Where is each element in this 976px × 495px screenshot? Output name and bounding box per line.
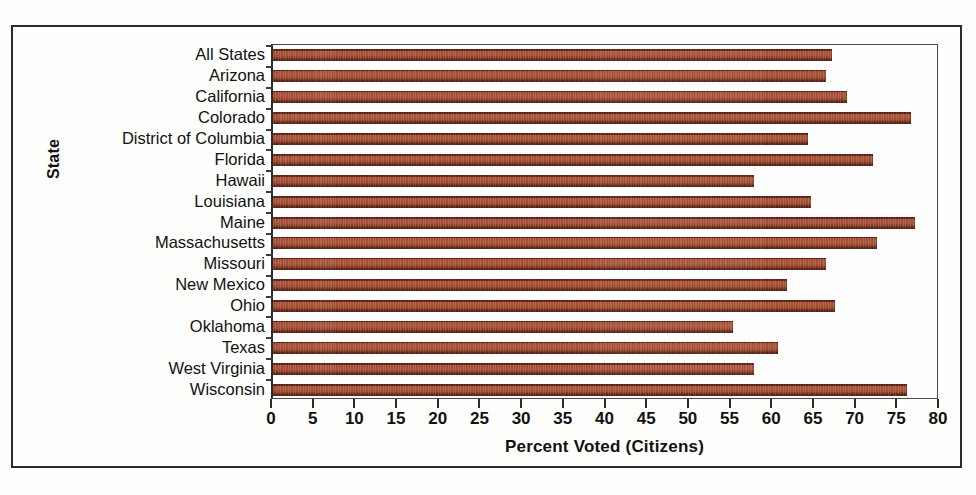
y-axis-tick	[266, 254, 273, 256]
bar-texture	[273, 363, 754, 375]
y-axis-tick	[266, 275, 273, 277]
y-axis-tick-label: Ohio	[60, 297, 265, 314]
plot-area	[271, 44, 938, 399]
bar	[273, 258, 826, 270]
bar	[273, 342, 778, 354]
bar-texture	[273, 112, 911, 124]
y-axis-tick-label: Massachusetts	[60, 234, 265, 251]
y-axis-tick-label: All States	[60, 46, 265, 63]
y-axis-tick	[266, 149, 273, 151]
x-axis-tick-label: 5	[308, 409, 317, 429]
bar-texture	[273, 154, 873, 166]
bar	[273, 384, 907, 396]
bar	[273, 237, 877, 249]
bar	[273, 279, 787, 291]
y-axis-tick-label: Florida	[60, 151, 265, 168]
x-axis-tick	[687, 399, 689, 408]
y-axis-tick-label: Missouri	[60, 255, 265, 272]
x-axis-tick-label: 65	[803, 409, 822, 429]
x-axis-tick-label: 15	[387, 409, 406, 429]
bar-texture	[273, 49, 832, 61]
x-axis-tick-label: 80	[929, 409, 948, 429]
bar	[273, 154, 873, 166]
x-axis-tick-label: 30	[512, 409, 531, 429]
bar	[273, 49, 832, 61]
x-axis-tick-label: 50	[678, 409, 697, 429]
y-axis-tick	[266, 66, 273, 68]
bar	[273, 300, 835, 312]
y-axis-tick-label: Wisconsin	[60, 381, 265, 398]
x-axis-tick-label: 25	[470, 409, 489, 429]
y-axis-tick	[266, 170, 273, 172]
x-axis-tick	[395, 399, 397, 408]
bar-texture	[273, 217, 915, 229]
y-axis-tick-label: Maine	[60, 214, 265, 231]
x-axis-tick-label: 75	[887, 409, 906, 429]
bar-texture	[273, 258, 826, 270]
x-axis-tick	[937, 399, 939, 408]
y-axis-tick-label: California	[60, 88, 265, 105]
x-axis-tick	[604, 399, 606, 408]
bar-texture	[273, 91, 847, 103]
x-axis-tick-label: 45	[637, 409, 656, 429]
x-axis-tick	[645, 399, 647, 408]
y-axis-tick-label: West Virginia	[60, 360, 265, 377]
y-axis-tick	[266, 191, 273, 193]
x-axis-tick-label: 20	[428, 409, 447, 429]
y-axis-tick	[266, 45, 273, 47]
bar	[273, 196, 811, 208]
x-axis-tick-label: 10	[345, 409, 364, 429]
y-axis-tick-label: Texas	[60, 339, 265, 356]
bar-texture	[273, 384, 907, 396]
x-axis-tick	[478, 399, 480, 408]
bar-texture	[273, 321, 733, 333]
x-axis-tick-label: 35	[553, 409, 572, 429]
x-axis-tick	[270, 399, 272, 408]
x-axis-title: Percent Voted (Citizens)	[271, 437, 938, 457]
x-axis-tick	[895, 399, 897, 408]
y-axis-tick	[266, 87, 273, 89]
y-axis-tick-label: Oklahoma	[60, 318, 265, 335]
y-axis-tick	[266, 358, 273, 360]
bar	[273, 363, 754, 375]
x-axis-tick	[353, 399, 355, 408]
x-axis-tick	[729, 399, 731, 408]
bar-texture	[273, 300, 835, 312]
y-axis-tick	[266, 108, 273, 110]
bar	[273, 175, 754, 187]
x-axis-tick-label: 70	[845, 409, 864, 429]
y-axis-tick-label: New Mexico	[60, 276, 265, 293]
y-axis-tick	[266, 379, 273, 381]
x-axis-tick-label: 60	[762, 409, 781, 429]
bar-texture	[273, 342, 778, 354]
bar	[273, 112, 911, 124]
x-axis-tick	[520, 399, 522, 408]
y-axis-tick-labels: All StatesArizonaCaliforniaColoradoDistr…	[60, 44, 265, 399]
x-axis-tick	[562, 399, 564, 408]
x-axis-tick	[312, 399, 314, 408]
x-axis-tick-label: 40	[595, 409, 614, 429]
y-axis-tick-label: Arizona	[60, 67, 265, 84]
bar	[273, 321, 733, 333]
bar	[273, 70, 826, 82]
bar-texture	[273, 279, 787, 291]
bar-texture	[273, 237, 877, 249]
y-axis-tick	[266, 129, 273, 131]
y-axis-tick	[266, 296, 273, 298]
x-axis-tick	[770, 399, 772, 408]
bar-texture	[273, 133, 808, 145]
y-axis-tick-label: Hawaii	[60, 172, 265, 189]
x-axis-tick	[854, 399, 856, 408]
y-axis-tick	[266, 316, 273, 318]
bar-texture	[273, 70, 826, 82]
chart-figure: State All StatesArizonaCaliforniaColorad…	[0, 0, 976, 495]
x-axis-ticks	[271, 399, 938, 408]
bar-texture	[273, 196, 811, 208]
y-axis-tick	[266, 212, 273, 214]
y-axis-tick-label: District of Columbia	[60, 130, 265, 147]
x-axis-tick-label: 0	[266, 409, 275, 429]
y-axis-tick-label: Louisiana	[60, 193, 265, 210]
y-axis-tick-label: Colorado	[60, 109, 265, 126]
bar	[273, 217, 915, 229]
x-axis-tick	[812, 399, 814, 408]
